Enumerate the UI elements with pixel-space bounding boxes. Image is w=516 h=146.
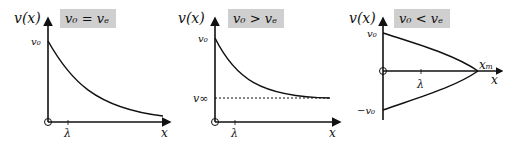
lambda-label: λ <box>230 127 238 140</box>
lower-curve <box>383 71 478 110</box>
condition-label: v₀ > vₑ <box>233 11 277 26</box>
lambda-label: λ <box>63 127 71 140</box>
panel-greater: v₀ > vₑ v(x) v₀ v∞ λ x <box>178 9 340 140</box>
panel-equal: v₀ = vₑ v(x) v₀ λ x <box>14 9 170 140</box>
y-axis-label: v(x) <box>14 10 41 26</box>
v0-label: v₀ <box>31 36 41 47</box>
xm-label: xₘ <box>479 58 493 72</box>
velocity-profiles-figure: v₀ = vₑ v(x) v₀ λ x v₀ > vₑ v(x) v₀ v∞ λ… <box>0 0 516 146</box>
panel-less: v₀ < vₑ v(x) v₀ −v₀ λ xₘ x <box>349 9 502 120</box>
decay-curve <box>48 41 163 116</box>
v0-label: v₀ <box>367 28 377 39</box>
v-infinity-label: v∞ <box>193 92 208 105</box>
neg-v0-label: −v₀ <box>357 105 375 116</box>
decay-curve <box>215 38 330 98</box>
v0-label: v₀ <box>198 33 208 44</box>
x-axis-label: x <box>161 126 168 140</box>
condition-label: v₀ < vₑ <box>399 11 443 26</box>
y-axis-label: v(x) <box>178 10 205 26</box>
y-axis-label: v(x) <box>349 10 376 26</box>
upper-curve <box>383 33 478 71</box>
x-axis-label: x <box>491 73 498 87</box>
x-axis-label: x <box>329 126 336 140</box>
lambda-label: λ <box>416 78 424 91</box>
condition-label: v₀ = vₑ <box>65 11 109 26</box>
